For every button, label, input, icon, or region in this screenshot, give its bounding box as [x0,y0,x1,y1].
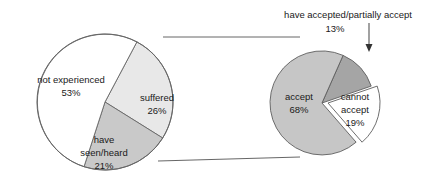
right-label-cannot-accept-line2: accept [341,104,369,115]
right-label-cannot-accept-line1: cannot [341,91,370,102]
left-label-have-seen-heard-line1: have [94,134,115,145]
pie-chart-figure: not experienced 53% suffered 26% have se… [0,0,433,191]
left-value-suffered: 26% [147,105,167,116]
left-pie-chart: not experienced 53% suffered 26% have se… [37,34,174,171]
right-value-cannot-accept: 19% [345,117,365,128]
left-label-suffered: suffered [140,92,174,103]
chart-canvas: not experienced 53% suffered 26% have se… [0,0,433,191]
callout-label-have-accepted: have accepted/partially accept [284,9,412,20]
left-label-have-seen-heard-line2: seen/heard [80,147,128,158]
left-label-not-experienced: not experienced [37,74,105,85]
right-label-accept: accept [285,91,313,102]
right-value-accept: 68% [289,104,309,115]
left-value-have-seen-heard: 21% [94,160,114,171]
left-value-not-experienced: 53% [61,87,81,98]
callout-value-have-accepted: 13% [325,23,345,34]
callout-annotation: have accepted/partially accept 13% [284,9,412,52]
right-pie-chart: accept 68% cannot accept 19% [270,51,380,155]
callout-arrow-head [366,44,373,52]
connector-line-bottom [158,157,300,161]
